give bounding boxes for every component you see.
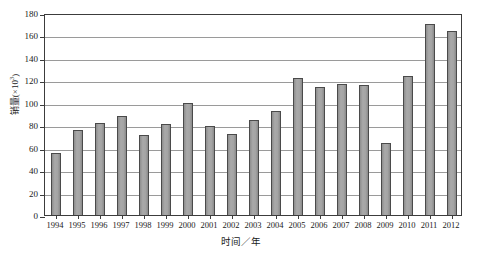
y-axis-tick-mark	[40, 217, 45, 218]
y-axis-tick-label: 40	[29, 165, 38, 178]
bar	[205, 126, 215, 215]
x-axis-tick-label: 2003	[245, 219, 262, 231]
bar-slot	[199, 15, 221, 215]
y-axis-tick-label: 100	[25, 98, 39, 111]
x-axis-tick-label: 1999	[157, 219, 174, 231]
x-axis-tick-label: 2005	[289, 219, 306, 231]
bar-slot	[67, 15, 89, 215]
x-axis-tick-label: 2002	[223, 219, 240, 231]
bar	[425, 24, 435, 215]
bar-slot	[265, 15, 287, 215]
y-axis-tick-label: 140	[25, 53, 39, 66]
bar	[139, 135, 149, 215]
y-axis-tick-label: 120	[25, 75, 39, 88]
plot-area: 180160140120100806040200	[44, 14, 462, 216]
x-axis-tick-label: 1994	[47, 219, 64, 231]
x-axis-tick-label: 1997	[113, 219, 130, 231]
x-axis-tick-labels: 1994199519961997199819992000200120022003…	[44, 219, 462, 235]
bar	[315, 87, 325, 215]
bar-slot	[397, 15, 419, 215]
bar	[337, 84, 347, 215]
bar-slot	[89, 15, 111, 215]
x-axis-tick-label: 2007	[333, 219, 350, 231]
bar	[447, 31, 457, 215]
y-axis-tick-label: 0	[34, 210, 39, 223]
y-axis-title-base: 销量(×10	[10, 80, 20, 115]
x-axis-tick-label: 2010	[399, 219, 416, 231]
bar-slot	[221, 15, 243, 215]
bar	[95, 123, 105, 215]
x-axis-tick-label: 2012	[443, 219, 460, 231]
y-axis-tick-label: 20	[29, 188, 38, 201]
bar	[271, 111, 281, 215]
bar-slot	[419, 15, 441, 215]
bar	[227, 134, 237, 215]
x-axis-tick-label: 2011	[421, 219, 438, 231]
y-axis-tick-label: 60	[29, 143, 38, 156]
x-axis-title: 时间／年	[0, 234, 481, 248]
bar	[249, 120, 259, 215]
bar-slot	[441, 15, 463, 215]
y-axis-tick-label: 80	[29, 120, 38, 133]
bar-slot	[243, 15, 265, 215]
bars-layer	[45, 15, 461, 215]
bar	[381, 143, 391, 215]
bar	[117, 116, 127, 215]
bar-slot	[111, 15, 133, 215]
bar	[403, 76, 413, 215]
bar	[293, 78, 303, 215]
bar-slot	[45, 15, 67, 215]
bar-slot	[309, 15, 331, 215]
x-axis-tick-label: 1995	[69, 219, 86, 231]
x-axis-tick-label: 2004	[267, 219, 284, 231]
y-axis-tick-label: 160	[25, 30, 39, 43]
y-axis-title: 销量(×103)	[8, 55, 21, 135]
x-axis-tick-label: 2008	[355, 219, 372, 231]
bar-slot	[331, 15, 353, 215]
x-axis-tick-label: 1998	[135, 219, 152, 231]
bar	[183, 103, 193, 215]
bar	[73, 130, 83, 215]
bar-slot	[353, 15, 375, 215]
x-axis-tick-label: 2006	[311, 219, 328, 231]
x-axis-tick-label: 2009	[377, 219, 394, 231]
bar-slot	[133, 15, 155, 215]
bar-slot	[287, 15, 309, 215]
bar-slot	[375, 15, 397, 215]
x-axis-tick-label: 2001	[201, 219, 218, 231]
bar-chart: 销量(×103) 180160140120100806040200 199419…	[0, 0, 481, 257]
x-axis-tick-label: 1996	[91, 219, 108, 231]
bar	[161, 124, 171, 215]
bar-slot	[177, 15, 199, 215]
y-axis-tick-label: 180	[25, 8, 39, 21]
y-axis-title-exponent: 3	[8, 77, 15, 80]
bar	[359, 85, 369, 215]
bar	[51, 153, 61, 215]
x-axis-tick-label: 2000	[179, 219, 196, 231]
y-axis-title-tail: )	[10, 74, 20, 77]
bar-slot	[155, 15, 177, 215]
